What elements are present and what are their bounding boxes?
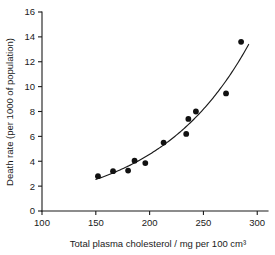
y-tick-label: 2 — [30, 181, 35, 192]
x-tick-label: 250 — [195, 217, 211, 228]
data-point — [125, 168, 131, 174]
data-point — [142, 160, 148, 166]
y-axis-ticks: 0246810121416 — [24, 6, 42, 216]
y-tick-label: 6 — [30, 131, 35, 142]
y-tick-label: 16 — [24, 6, 35, 17]
x-tick-label: 100 — [34, 217, 50, 228]
chart-figure: 0246810121416 100150200250300 Total plas… — [0, 0, 275, 255]
y-tick-label: 10 — [24, 81, 35, 92]
y-tick-label: 4 — [30, 156, 35, 167]
data-point — [183, 131, 189, 137]
data-point — [161, 140, 167, 146]
x-tick-label: 150 — [88, 217, 104, 228]
data-point — [185, 116, 191, 122]
data-point — [132, 158, 138, 164]
fitted-curve — [96, 44, 249, 179]
axes — [42, 12, 268, 211]
y-tick-label: 12 — [24, 56, 35, 67]
data-point — [193, 109, 199, 115]
data-point — [110, 168, 116, 174]
y-tick-label: 14 — [24, 31, 35, 42]
x-tick-label: 300 — [249, 217, 265, 228]
y-tick-label: 8 — [30, 106, 35, 117]
data-point — [238, 39, 244, 45]
data-points — [95, 39, 244, 179]
y-tick-label: 0 — [30, 205, 35, 216]
scatter-plot: 0246810121416 100150200250300 Total plas… — [0, 0, 275, 255]
data-point — [223, 91, 229, 97]
x-tick-label: 200 — [142, 217, 158, 228]
data-point — [95, 173, 101, 179]
x-axis-title: Total plasma cholesterol / mg per 100 cm… — [70, 238, 246, 249]
y-axis-title: Death rate (per 1000 of population) — [4, 38, 15, 186]
x-axis-ticks: 100150200250300 — [34, 211, 265, 228]
